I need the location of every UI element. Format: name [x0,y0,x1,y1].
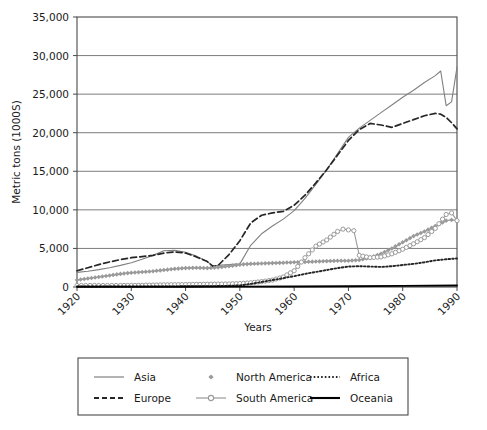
data-point-marker [82,277,87,282]
data-point-marker [75,278,80,283]
y-tick-label: 15,000 [32,165,69,177]
data-point-marker [341,227,345,231]
data-point-marker [422,236,426,240]
x-axis-tick-labels: 19201930194019501960197019801990 [55,290,462,317]
plot-frame [77,17,457,287]
data-point-marker [400,240,405,245]
x-tick-label: 1940 [164,290,191,317]
series-south-america [75,211,459,288]
data-point-marker [307,252,311,256]
data-point-marker [310,248,314,252]
x-tick-label: 1970 [326,290,353,317]
data-point-marker [449,211,453,215]
x-tick-label: 1950 [218,290,245,317]
y-axis-ticks [73,17,77,287]
data-point-marker [357,258,362,263]
series-line [77,67,457,272]
data-point-marker [449,218,454,223]
series-europe [77,113,457,270]
y-tick-label: 0 [62,281,69,293]
legend-box [78,358,408,415]
data-point-marker [78,277,83,282]
data-point-marker [408,236,413,241]
data-point-marker [96,275,101,280]
data-point-marker [154,269,159,274]
data-point-marker [151,269,156,274]
data-point-marker [89,276,94,281]
data-point-marker [125,271,130,276]
y-axis-title: Metric tons (1000S) [10,100,22,204]
data-point-marker [296,264,300,268]
legend-label: Oceania [350,392,393,404]
chart-figure: 05,00010,00015,00020,00025,00030,00035,0… [0,0,487,430]
data-point-marker [352,229,356,233]
data-point-marker [437,222,441,226]
data-point-marker [292,269,296,273]
data-point-marker [397,242,402,247]
data-point-marker [433,226,437,230]
data-point-marker [100,274,105,279]
x-tick-label: 1990 [435,290,462,317]
data-point-marker [335,229,339,233]
legend-swatch-marker [208,395,213,400]
data-point-marker [430,229,434,233]
data-point-marker [303,256,307,260]
data-point-marker [111,273,116,278]
line-chart: 05,00010,00015,00020,00025,00030,00035,0… [0,0,487,430]
data-point-marker [455,219,459,223]
data-point-marker [93,275,98,280]
x-tick-label: 1980 [381,290,408,317]
series-asia [77,67,457,272]
x-tick-label: 1960 [272,290,299,317]
y-tick-label: 35,000 [32,11,69,23]
data-point-marker [299,260,303,264]
data-point-marker [440,217,444,221]
legend-label: Europe [134,392,171,404]
data-point-marker [404,238,409,243]
data-point-marker [444,212,448,216]
data-point-marker [165,267,170,272]
data-point-marker [122,271,127,276]
y-tick-label: 25,000 [32,88,69,100]
grid-lines [77,56,457,249]
legend-label: Asia [134,371,156,383]
data-point-marker [107,273,112,278]
series-line [77,113,457,270]
legend-label: South America [236,392,313,404]
data-point-marker [115,272,120,277]
x-tick-label: 1920 [55,290,82,317]
data-point-marker [169,267,174,272]
legend-label: Africa [350,371,380,383]
y-axis-tick-labels: 05,00010,00015,00020,00025,00030,00035,0… [32,11,69,293]
y-tick-label: 5,000 [39,242,69,254]
chart-legend: AsiaNorth AmericaAfricaEuropeSouth Ameri… [78,358,408,415]
plot-border-rect [77,17,457,287]
legend-label: North America [236,371,312,383]
data-point-marker [104,274,109,279]
data-point-marker [426,232,430,236]
data-point-marker [346,228,350,232]
data-point-marker [158,268,163,273]
y-tick-label: 30,000 [32,50,69,62]
x-tick-label: 1930 [109,290,136,317]
data-point-marker [86,276,91,281]
x-axis-title: Years [243,321,272,333]
data-series-group [75,67,460,287]
y-tick-label: 10,000 [32,204,69,216]
data-point-marker [162,268,167,273]
y-tick-label: 20,000 [32,127,69,139]
data-point-marker [118,272,123,277]
